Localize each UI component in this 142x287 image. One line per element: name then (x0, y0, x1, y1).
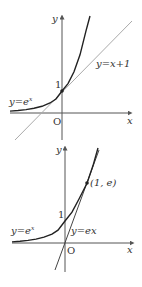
x-axis-label: x (127, 115, 133, 126)
graph-top: y x O 1 y=x+1 y=ex (8, 13, 133, 140)
origin-label: O (67, 245, 75, 256)
curve-label: y=ex (8, 95, 33, 107)
graph-bottom: y x O 1 (1, e) y=ex y=ex (10, 144, 133, 272)
curve-label: y=ex (10, 224, 35, 236)
tangency-point-1-e (85, 181, 89, 185)
figure-canvas: y x O 1 y=x+1 y=ex y x O 1 (1, e) y=ex y… (0, 0, 142, 287)
tangent-line-x-plus-1 (15, 21, 132, 140)
origin-label: O (53, 116, 61, 127)
line-label: y=ex (70, 225, 97, 236)
y-tick-1: 1 (55, 79, 61, 90)
point-label: (1, e) (90, 177, 117, 188)
y-axis-label: y (55, 144, 62, 155)
line-label: y=x+1 (95, 58, 130, 69)
y-axis-label: y (51, 13, 58, 24)
y-tick-1: 1 (58, 209, 64, 220)
x-axis-label: x (127, 244, 133, 255)
